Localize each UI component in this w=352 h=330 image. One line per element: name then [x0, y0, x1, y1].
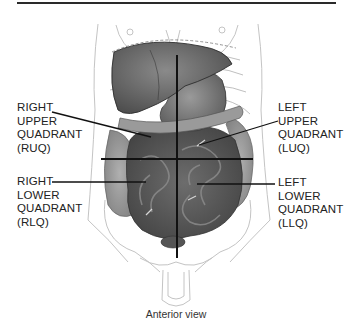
label-line: QUADRANT: [17, 202, 82, 216]
label-rlq: RIGHT LOWER QUADRANT (RLQ): [17, 175, 82, 229]
label-luq: LEFT UPPER QUADRANT (LUQ): [278, 101, 343, 155]
label-line: (LUQ): [278, 142, 343, 156]
label-line: (RLQ): [17, 216, 82, 230]
label-ruq: RIGHT UPPER QUADRANT (RUQ): [17, 101, 82, 155]
label-line: LEFT: [278, 176, 343, 190]
label-line: LEFT: [278, 101, 343, 115]
label-llq: LEFT LOWER QUADRANT (LLQ): [278, 176, 343, 230]
label-line: QUADRANT: [278, 203, 343, 217]
label-line: (LLQ): [278, 217, 343, 231]
small-intestine: [126, 127, 242, 239]
label-line: (RUQ): [17, 142, 82, 156]
bladder: [161, 236, 185, 248]
figure-caption: Anterior view: [0, 308, 352, 320]
abdomen-illustration: [0, 0, 352, 330]
label-line: LOWER: [278, 190, 343, 204]
label-line: RIGHT: [17, 175, 82, 189]
label-line: UPPER: [278, 115, 343, 129]
label-line: LOWER: [17, 189, 82, 203]
label-line: QUADRANT: [278, 128, 343, 142]
label-line: RIGHT: [17, 101, 82, 115]
label-line: UPPER: [17, 115, 82, 129]
label-line: QUADRANT: [17, 128, 82, 142]
